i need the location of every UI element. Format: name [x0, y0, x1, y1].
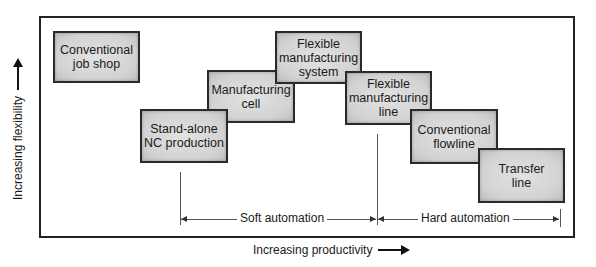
arrowhead-right-icon — [553, 216, 559, 222]
hard-automation-end-tick — [560, 209, 561, 227]
hard-automation-label: Hard automation — [418, 212, 513, 225]
arrow-right-icon — [378, 249, 408, 251]
arrowhead-left-icon — [378, 216, 384, 222]
arrowhead-right-icon — [370, 216, 376, 222]
automation-boundary-tick — [377, 134, 378, 225]
x-axis-text: Increasing productivity — [253, 243, 372, 257]
y-axis-label: Increasing flexibility — [11, 60, 25, 200]
y-axis-text: Increasing flexibility — [11, 96, 25, 200]
box-conventional-job-shop: Conventional job shop — [53, 31, 140, 83]
box-stand-alone-nc-production: Stand-alone NC production — [140, 109, 228, 163]
box-transfer-line: Transfer line — [478, 148, 565, 203]
soft-automation-label: Soft automation — [237, 212, 327, 225]
arrow-up-icon — [17, 60, 19, 90]
arrowhead-left-icon — [181, 216, 187, 222]
x-axis-label: Increasing productivity — [253, 243, 408, 257]
